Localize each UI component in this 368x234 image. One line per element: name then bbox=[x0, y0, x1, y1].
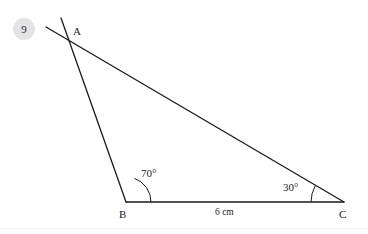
vertex-label-c: C bbox=[339, 209, 346, 220]
triangle-diagram-svg bbox=[0, 0, 368, 234]
angle-arc-c bbox=[311, 186, 315, 203]
page-divider bbox=[0, 228, 368, 229]
angle-label-b: 70° bbox=[141, 168, 156, 179]
segment-ac bbox=[46, 27, 344, 202]
side-length-label-bc: 6 cm bbox=[215, 208, 234, 218]
segment-ab bbox=[61, 18, 126, 202]
vertex-label-a: A bbox=[73, 26, 81, 37]
geometry-figure: 9 A B C 70° 30° 6 cm bbox=[0, 0, 368, 234]
question-number-badge: 9 bbox=[13, 18, 35, 40]
question-number-text: 9 bbox=[21, 24, 27, 35]
angle-arc-b bbox=[135, 178, 152, 202]
angle-label-c: 30° bbox=[283, 182, 298, 193]
vertex-label-b: B bbox=[119, 209, 126, 220]
